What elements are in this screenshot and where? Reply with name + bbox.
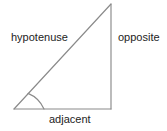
trigonometry-triangle-diagram: hypotenuse opposite adjacent — [0, 0, 167, 131]
angle-arc-icon — [28, 93, 44, 109]
label-opposite: opposite — [118, 31, 160, 44]
triangle-figure — [0, 0, 167, 131]
label-adjacent: adjacent — [49, 113, 91, 126]
label-hypotenuse: hypotenuse — [11, 31, 68, 44]
